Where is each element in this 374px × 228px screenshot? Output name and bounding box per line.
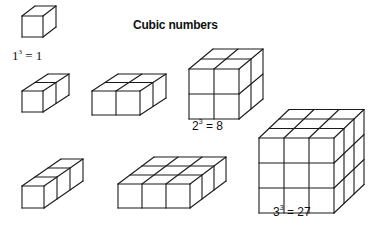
cubic-numbers-diagram: Cubic numbers 13 = 1 23 = 8 33 = 27 xyxy=(0,0,374,228)
label-result: = 1 xyxy=(22,48,42,63)
cube-1x1x3-figure xyxy=(22,159,83,208)
cube-drawings xyxy=(0,0,374,228)
label-result: = 27 xyxy=(284,205,311,219)
label-one-cubed: 13 = 1 xyxy=(12,48,42,64)
cube-1x1x2-figure xyxy=(22,74,69,112)
cube-3x3x3-figure xyxy=(259,110,364,214)
cube-2x2x2-figure xyxy=(189,49,263,119)
label-exponent: 3 xyxy=(280,204,284,211)
cube-1x1x1-figure xyxy=(22,6,56,37)
label-two-cubed: 23 = 8 xyxy=(192,119,223,133)
label-result: = 8 xyxy=(203,119,223,133)
cube-3x1x3-figure xyxy=(118,157,226,208)
cube-2x1x2-figure xyxy=(92,74,166,115)
diagram-title: Cubic numbers xyxy=(133,18,218,32)
label-exponent: 3 xyxy=(19,48,23,56)
label-base: 1 xyxy=(12,48,19,63)
label-exponent: 3 xyxy=(199,118,203,125)
label-base: 3 xyxy=(273,205,280,219)
label-base: 2 xyxy=(192,119,199,133)
label-three-cubed: 33 = 27 xyxy=(273,205,311,219)
